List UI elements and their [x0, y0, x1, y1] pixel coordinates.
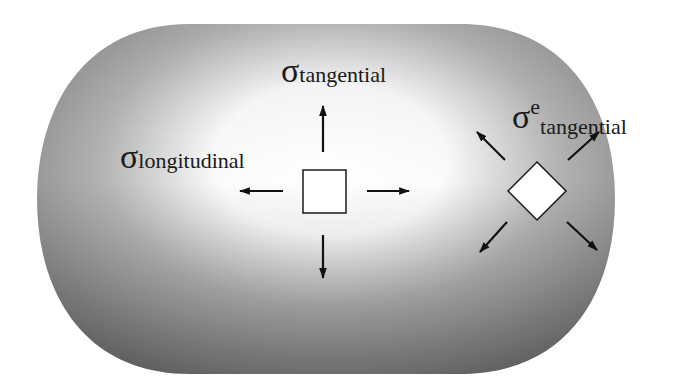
subscript-longitudinal: longitudinal — [138, 148, 244, 173]
sigma-symbol: σ — [512, 98, 530, 135]
sigma-symbol: σ — [120, 138, 138, 175]
stress-element-square — [303, 170, 346, 213]
label-sigma-tangential: σtangential — [281, 54, 386, 88]
label-sigma-longitudinal: σlongitudinal — [120, 140, 245, 174]
stress-diagram: σtangential σlongitudinal σetangential — [0, 0, 680, 385]
subscript-tangential: tangential — [299, 62, 386, 87]
label-sigma-e-tangential: σetangential — [512, 100, 627, 134]
superscript-e: e — [530, 94, 540, 119]
sigma-symbol: σ — [281, 52, 299, 89]
subscript-tangential: tangential — [540, 114, 627, 139]
